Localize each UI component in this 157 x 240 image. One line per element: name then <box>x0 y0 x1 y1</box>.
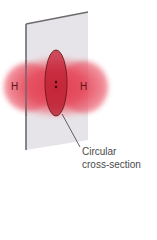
caption-line-2: cross-section <box>82 158 141 171</box>
hydrogen-label-left: H <box>11 82 18 92</box>
caption: Circular cross-section <box>82 145 141 171</box>
caption-line-1: Circular <box>82 145 141 158</box>
hydrogen-label-right: H <box>80 82 87 92</box>
